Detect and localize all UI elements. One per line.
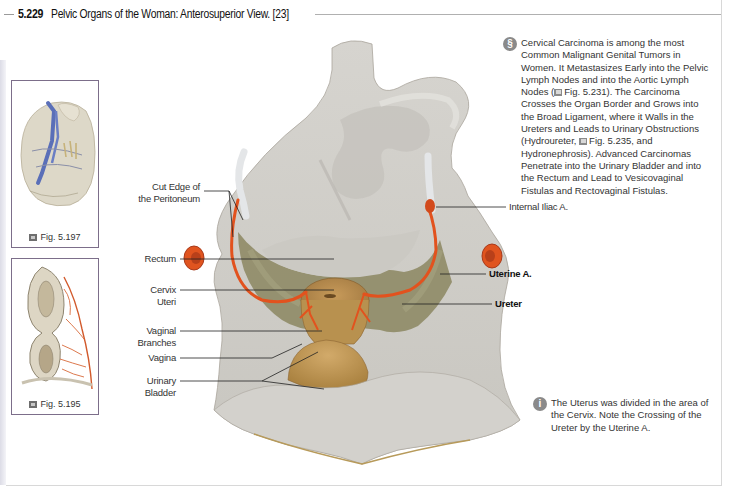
- label-ureter: Ureter: [495, 298, 522, 310]
- label-cervix-uteri: Cervix Uteri: [118, 284, 176, 308]
- info-icon: i: [533, 397, 547, 411]
- clinical-note-icon: §: [503, 37, 517, 51]
- clinical-note: § Cervical Carcinoma is among the most C…: [521, 37, 711, 197]
- figure-reference-icon: [554, 89, 562, 96]
- label-vaginal-branches: Vaginal Branches: [118, 325, 176, 349]
- label-rectum: Rectum: [118, 253, 176, 265]
- info-note: i The Uterus was divided in the area of …: [551, 397, 711, 434]
- label-internal-iliac-artery: Internal Iliac A.: [509, 201, 568, 213]
- figure-reference-icon: [579, 138, 587, 145]
- info-note-text: The Uterus was divided in the area of th…: [551, 397, 708, 433]
- label-uterine-artery: Uterine A.: [489, 268, 532, 280]
- label-vagina: Vagina: [118, 352, 176, 364]
- label-urinary-bladder: Urinary Bladder: [118, 375, 176, 399]
- label-cut-edge-peritoneum: Cut Edge of the Peritoneum: [118, 181, 200, 205]
